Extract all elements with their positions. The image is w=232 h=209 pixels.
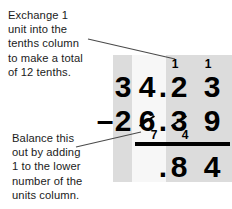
minuend-digit-tenths: 2 (168, 72, 190, 102)
subtrahend-decimal-point: . (158, 106, 168, 136)
carry-mark-hundredths: 1 (203, 58, 213, 70)
worksheet-figure: Exchange 1 unit into the tenths column t… (0, 0, 232, 209)
subtrahend-tenths-correction: 4 (180, 129, 190, 141)
minuend-digit-hundredths: 3 (201, 72, 223, 102)
minuend-digit-tens: 3 (112, 72, 134, 102)
subtrahend-digit-tens: 2 (112, 106, 134, 136)
answer-decimal-point: . (158, 152, 168, 182)
minuend-digit-units: 4 (136, 72, 158, 102)
answer-digit-hundredths: 4 (201, 152, 223, 182)
vertical-subtraction: 1 1 3 4 . 2 3 – 2 6 7 . 3 4 9 . 8 4 (0, 0, 232, 209)
carry-mark-tenths: 1 (170, 58, 180, 70)
minuend-decimal-point: . (158, 72, 168, 102)
answer-digit-tenths: 8 (168, 152, 190, 182)
answer-rule (135, 142, 230, 146)
subtrahend-digit-hundredths: 9 (201, 106, 223, 136)
